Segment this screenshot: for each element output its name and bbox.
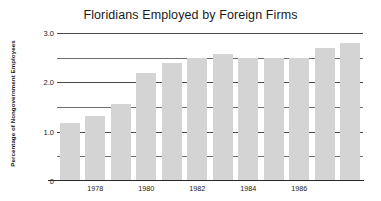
x-axis-tick-labels: 19781980198219841986 — [0, 0, 381, 201]
x-tick-label: 1982 — [177, 184, 217, 193]
x-tick-label: 1984 — [228, 184, 268, 193]
x-tick-label: 1978 — [75, 184, 115, 193]
x-tick-label: 1980 — [126, 184, 166, 193]
x-tick-label: 1986 — [279, 184, 319, 193]
bar-chart: Floridians Employed by Foreign Firms Per… — [0, 0, 381, 201]
